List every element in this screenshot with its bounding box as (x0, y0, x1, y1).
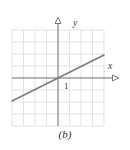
figure-container: y x 1 (b) (0, 0, 130, 150)
y-axis-label: y (72, 18, 78, 28)
x-tick-label-one: 1 (64, 81, 69, 91)
figure-caption: (b) (0, 128, 130, 140)
x-axis-label: x (107, 61, 113, 71)
